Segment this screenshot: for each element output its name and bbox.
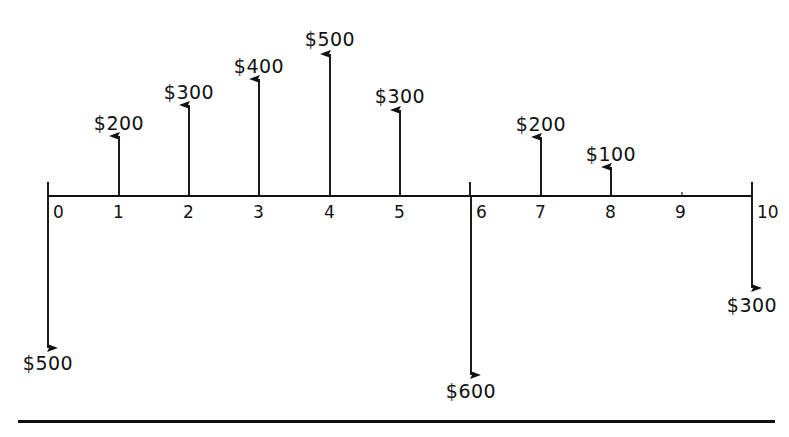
flow-period-4-amount-label: $500 xyxy=(305,28,355,50)
axis-tick-label-2: 2 xyxy=(183,202,194,222)
axis-tick-label-0: 0 xyxy=(53,202,64,222)
flow-period-6-amount-label: $600 xyxy=(446,380,496,402)
axis-tick-label-3: 3 xyxy=(253,202,264,222)
flow-period-7-amount-label: $200 xyxy=(516,113,566,135)
flow-period-1-amount-label: $200 xyxy=(94,112,144,134)
bottom-divider-rule xyxy=(18,420,775,423)
axis-tick-label-9: 9 xyxy=(675,202,686,222)
flow-period-2-amount-label: $300 xyxy=(164,81,214,103)
axis-tick-label-10: 10 xyxy=(757,202,779,222)
cash-flow-diagram: 012345678910 $500$200$300$400$500$300$60… xyxy=(0,0,789,437)
flow-period-10-amount-label: $300 xyxy=(727,294,777,316)
axis-tick-label-1: 1 xyxy=(113,202,124,222)
axis-tick-label-4: 4 xyxy=(324,202,335,222)
axis-tick-label-8: 8 xyxy=(605,202,616,222)
axis-tick-label-7: 7 xyxy=(535,202,546,222)
flow-period-0-amount-label: $500 xyxy=(23,352,73,374)
axis-tick-label-5: 5 xyxy=(394,202,405,222)
axis-tick-label-6: 6 xyxy=(476,202,487,222)
flow-period-3-amount-label: $400 xyxy=(234,55,284,77)
flow-period-8-amount-label: $100 xyxy=(586,143,636,165)
flow-period-5-amount-label: $300 xyxy=(375,85,425,107)
